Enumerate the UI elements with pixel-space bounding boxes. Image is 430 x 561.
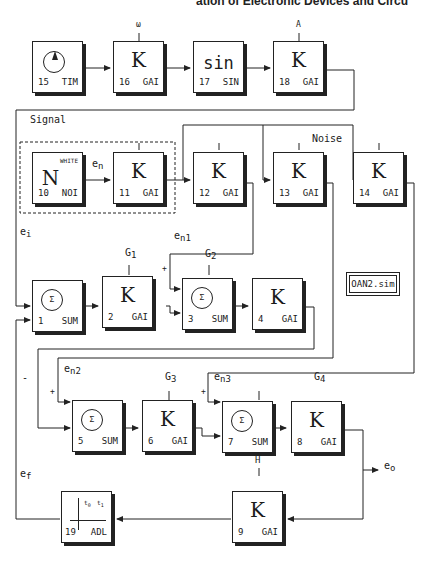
block-type: GAI (282, 314, 298, 324)
gain-symbol: K (233, 500, 282, 520)
t1-label: t1 (97, 499, 104, 506)
signal-eo: eo (384, 460, 395, 471)
noise-tag: WHITE (60, 157, 78, 164)
param-g3: G3 (165, 371, 176, 382)
delay-axis-icon (78, 498, 79, 530)
gain-symbol: K (292, 410, 341, 430)
block-type: GAI (303, 188, 319, 198)
block-type: TIM (62, 77, 78, 87)
block-number: 8 (297, 437, 302, 447)
param-amplitude: A (296, 20, 301, 29)
block-7-sum[interactable]: Σ 7 SUM (222, 401, 273, 453)
gain-symbol: K (114, 50, 163, 70)
block-number: 14 (359, 188, 370, 198)
minus-sign: - (22, 372, 28, 383)
block-12-gain[interactable]: K 12 GAI (193, 152, 244, 204)
block-number: 3 (188, 314, 193, 324)
block-17-sine[interactable]: sin 17 SIN (193, 41, 244, 93)
block-number: 12 (199, 188, 210, 198)
block-11-gain[interactable]: K 11 GAI (113, 152, 164, 204)
block-number: 7 (228, 437, 233, 447)
block-type: SUM (62, 316, 78, 326)
block-type: GAI (383, 188, 399, 198)
block-type: SUM (102, 436, 118, 446)
block-type: SUM (252, 437, 268, 447)
signal-en3: en3 (214, 371, 231, 382)
block-3-sum[interactable]: Σ 3 SUM (182, 278, 233, 330)
block-4-gain[interactable]: K 4 GAI (252, 278, 303, 330)
delay-axis-icon (70, 520, 106, 521)
block-13-gain[interactable]: K 13 GAI (273, 152, 324, 204)
block-9-gain[interactable]: K 9 GAI (232, 491, 283, 543)
sigma-icon: Σ (41, 289, 63, 311)
gain-symbol: K (354, 161, 403, 181)
block-14-gain[interactable]: K 14 GAI (353, 152, 404, 204)
signal-label: Signal (30, 114, 66, 125)
sigma-icon: Σ (231, 410, 253, 432)
block-number: 13 (279, 188, 290, 198)
signal-ei: ei (20, 226, 31, 237)
block-number: 15 (38, 77, 49, 87)
signal-en2: en2 (64, 363, 81, 374)
gain-symbol: K (194, 161, 243, 181)
param-omega: ω (136, 20, 141, 29)
block-8-gain[interactable]: K 8 GAI (291, 401, 342, 453)
block-type: SIN (223, 77, 239, 87)
noise-label: Noise (312, 133, 342, 144)
block-type: GAI (172, 436, 188, 446)
block-number: 9 (238, 527, 243, 537)
gain-symbol: K (103, 285, 152, 305)
block-number: 18 (279, 77, 290, 87)
param-g1: G1 (125, 247, 136, 258)
param-g4: G4 (314, 371, 325, 382)
block-2-gain[interactable]: K 2 GAI (102, 276, 153, 328)
gain-symbol: K (143, 409, 192, 429)
signal-en1: en1 (174, 230, 191, 241)
block-number: 19 (65, 527, 76, 537)
plus-sign: + (50, 387, 55, 396)
gain-symbol: K (274, 161, 323, 181)
file-name-box: OAN2.sim (346, 272, 400, 296)
block-19-delay[interactable]: t0 t1 19 ADL (61, 491, 112, 543)
sigma-icon: Σ (191, 287, 213, 309)
block-15-timer[interactable]: 15 TIM (32, 41, 83, 93)
signal-ef: ef (20, 468, 31, 479)
block-type: GAI (321, 437, 337, 447)
gain-symbol: K (253, 287, 302, 307)
block-type: GAI (143, 188, 159, 198)
block-type: GAI (223, 188, 239, 198)
param-h: H (255, 455, 260, 465)
block-6-gain[interactable]: K 6 GAI (142, 400, 193, 452)
noise-symbol: N (19, 168, 82, 188)
block-number: 1 (38, 316, 43, 326)
t0-label: t0 (84, 499, 91, 506)
plus-sign: + (162, 264, 167, 273)
block-type: ADL (91, 527, 107, 537)
file-name: OAN2.sim (349, 275, 397, 293)
sine-symbol: sin (194, 53, 243, 73)
block-number: 5 (78, 436, 83, 446)
block-number: 16 (119, 77, 130, 87)
signal-en: en (92, 158, 103, 169)
block-number: 17 (199, 77, 210, 87)
block-type: NOI (62, 188, 78, 198)
sigma-icon: Σ (81, 409, 103, 431)
block-18-gain[interactable]: K 18 GAI (273, 41, 324, 93)
block-5-sum[interactable]: Σ 5 SUM (72, 400, 123, 452)
gain-symbol: K (114, 161, 163, 181)
block-type: GAI (262, 527, 278, 537)
block-16-gain[interactable]: K 16 GAI (113, 41, 164, 93)
block-number: 6 (148, 436, 153, 446)
block-type: GAI (143, 77, 159, 87)
param-g2: G2 (205, 248, 216, 259)
block-number: 10 (38, 188, 49, 198)
block-number: 11 (119, 188, 130, 198)
gain-symbol: K (274, 50, 323, 70)
block-1-sum[interactable]: Σ 1 SUM (32, 280, 83, 332)
plus-sign: + (201, 387, 206, 396)
block-type: GAI (303, 77, 319, 87)
block-number: 4 (258, 314, 263, 324)
clock-icon (43, 51, 65, 73)
block-10-noise[interactable]: WHITE N 10 NOI (32, 152, 83, 204)
block-number: 2 (108, 312, 113, 322)
